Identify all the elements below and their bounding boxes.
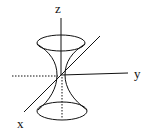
z-axis-label: z [55,1,61,16]
x-axis-label: x [17,116,24,131]
right-profile-curve [65,44,87,110]
y-axis-label: y [134,66,141,81]
y-axis [61,73,128,75]
left-profile-curve [37,44,57,110]
hyperboloid-diagram: z y x [0,0,154,140]
